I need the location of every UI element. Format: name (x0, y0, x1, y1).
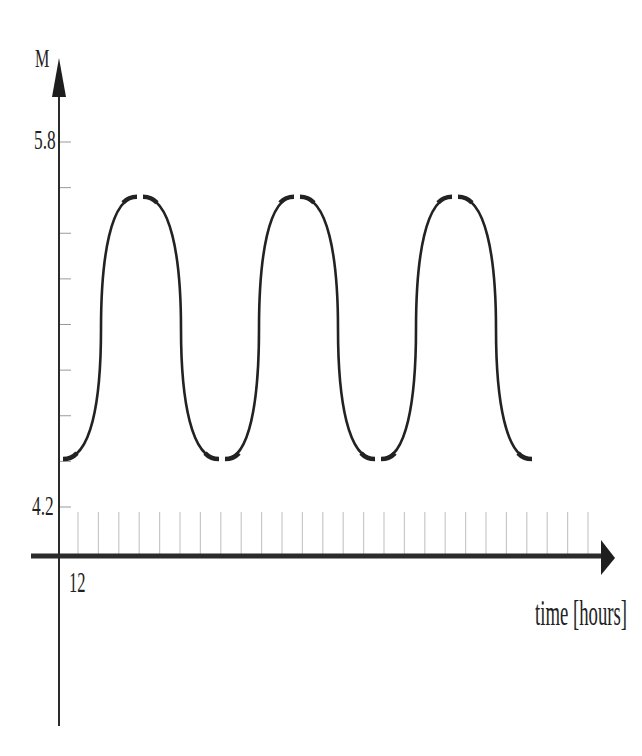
x-minor-ticks (78, 512, 588, 554)
series-m-curve (63, 197, 532, 459)
y-tick-label-bottom: 4.2 (32, 490, 54, 522)
chart-canvas (0, 0, 642, 756)
x-axis-arrow-icon (601, 540, 615, 575)
x-axis-label: time [hours] (535, 592, 627, 634)
y-tick-label-top: 5.8 (34, 124, 56, 156)
y-axis-arrow-icon (52, 58, 66, 97)
y-axis-label: M (35, 44, 49, 74)
x-tick-label-first: 12 (69, 565, 86, 599)
y-minor-ticks (60, 142, 71, 507)
